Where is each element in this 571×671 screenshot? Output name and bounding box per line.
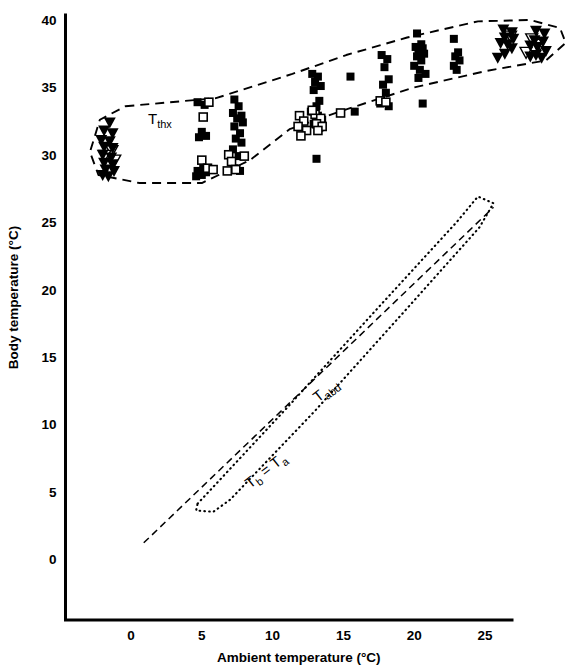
data-point-open-square xyxy=(209,166,217,174)
y-tick-label: 20 xyxy=(41,283,56,298)
data-point-filled-square xyxy=(346,73,354,81)
data-point-filled-square xyxy=(192,172,200,180)
data-point-open-square xyxy=(198,156,206,164)
data-point-filled-square xyxy=(453,66,461,74)
data-point-filled-triangle xyxy=(492,53,504,64)
x-tick-label: 10 xyxy=(265,628,280,643)
x-tick-label: 20 xyxy=(407,628,422,643)
data-point-open-square xyxy=(308,106,316,114)
x-tick-label: 15 xyxy=(336,628,352,643)
data-point-filled-square xyxy=(419,100,427,108)
data-point-filled-square xyxy=(379,81,387,89)
y-tick-label: 0 xyxy=(49,552,57,567)
x-tick-label: 25 xyxy=(477,628,493,643)
data-point-open-square xyxy=(337,109,345,117)
data-point-filled-square xyxy=(202,132,210,140)
chart-figure: 05101520253035400510152025Ambient temper… xyxy=(0,0,571,671)
abdomen-envelope xyxy=(196,197,493,512)
y-tick-label: 15 xyxy=(41,350,57,365)
data-point-filled-square xyxy=(239,118,247,126)
data-point-open-square xyxy=(314,126,322,134)
data-point-open-square xyxy=(228,157,236,165)
data-point-filled-square xyxy=(312,155,320,163)
y-tick-label: 5 xyxy=(49,485,57,500)
series-square-open xyxy=(198,97,390,175)
x-axis-title: Ambient temperature (°C) xyxy=(217,650,381,665)
data-point-filled-square xyxy=(382,89,390,97)
data-point-filled-square xyxy=(310,86,318,94)
identity-line xyxy=(144,207,494,543)
data-point-open-square xyxy=(294,122,302,130)
data-point-filled-square xyxy=(195,133,203,141)
data-point-open-square xyxy=(240,152,248,160)
data-point-open-square xyxy=(199,113,207,121)
data-point-open-square xyxy=(382,98,390,106)
identity-line-label: Tb = Ta xyxy=(241,448,291,493)
x-tick-label: 0 xyxy=(127,628,135,643)
y-tick-label: 40 xyxy=(41,13,56,28)
data-point-filled-square xyxy=(317,82,325,90)
y-tick-label: 30 xyxy=(41,148,56,163)
data-point-filled-square xyxy=(194,98,202,106)
data-point-open-square xyxy=(223,167,231,175)
data-point-filled-square xyxy=(383,55,391,63)
data-point-open-square xyxy=(297,132,305,140)
scatter-plot: 05101520253035400510152025Ambient temper… xyxy=(0,0,571,671)
data-point-open-square xyxy=(232,166,240,174)
data-point-filled-square xyxy=(380,63,388,71)
thorax-envelope-label: Tthx xyxy=(148,110,172,130)
data-point-filled-square xyxy=(237,139,245,147)
x-tick-label: 5 xyxy=(198,628,206,643)
data-point-filled-square xyxy=(413,29,421,37)
data-point-filled-square xyxy=(417,56,425,64)
data-point-open-square xyxy=(205,98,213,106)
thorax-envelope xyxy=(90,20,566,183)
y-tick-label: 35 xyxy=(41,80,57,95)
data-point-filled-square xyxy=(351,108,359,116)
data-point-filled-square xyxy=(422,70,430,78)
y-tick-label: 10 xyxy=(41,417,56,432)
y-tick-label: 25 xyxy=(41,215,57,230)
data-point-filled-square xyxy=(450,35,458,43)
y-axis-title: Body temperature (°C) xyxy=(6,226,21,369)
data-point-filled-square xyxy=(414,74,422,82)
